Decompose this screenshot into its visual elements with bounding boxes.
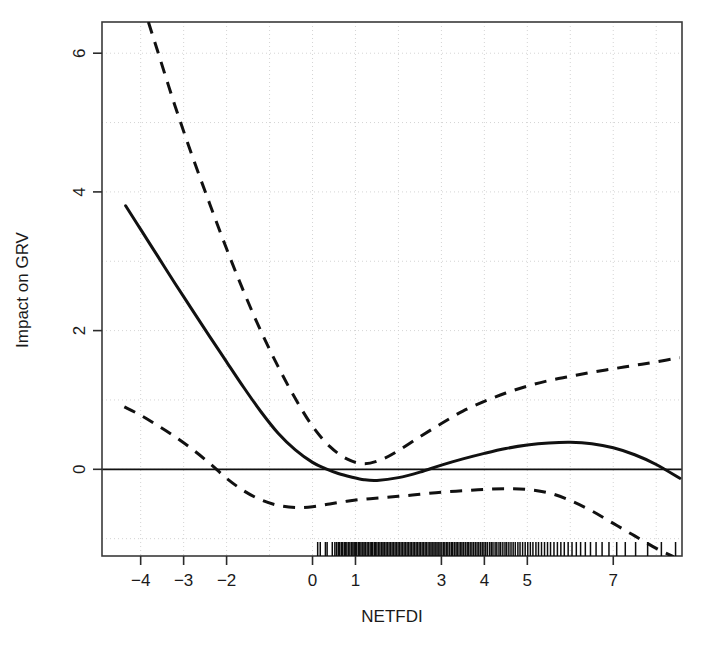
y-axis-label: Impact on GRV <box>13 231 32 348</box>
x-tick-label: 7 <box>609 571 618 590</box>
chart-container: −4−3−2013457 0246 NETFDI Impact on GRV <box>0 0 701 647</box>
y-axis-ticks: 0246 <box>71 48 103 474</box>
x-tick-label: −4 <box>131 571 150 590</box>
y-tick-label: 2 <box>71 326 90 335</box>
x-tick-label: −3 <box>174 571 193 590</box>
fitted-smooth-curve <box>126 206 680 481</box>
chart-svg: −4−3−2013457 0246 NETFDI Impact on GRV <box>0 0 701 647</box>
x-axis-ticks: −4−3−2013457 <box>131 556 618 590</box>
plot-border <box>102 22 682 556</box>
confidence-band-curve <box>148 22 679 464</box>
x-axis-label: NETFDI <box>361 607 422 626</box>
x-tick-label: 4 <box>480 571 489 590</box>
x-tick-label: 3 <box>437 571 446 590</box>
x-tick-label: 5 <box>523 571 532 590</box>
data-series <box>124 22 680 557</box>
y-tick-label: 6 <box>71 48 90 57</box>
x-tick-label: 1 <box>351 571 360 590</box>
x-tick-label: −2 <box>217 571 236 590</box>
plot-frame <box>102 22 682 556</box>
y-tick-label: 0 <box>71 465 90 474</box>
rug-plot <box>318 542 676 556</box>
y-tick-label: 4 <box>71 187 90 196</box>
grid-lines <box>102 22 682 556</box>
x-tick-label: 0 <box>308 571 317 590</box>
